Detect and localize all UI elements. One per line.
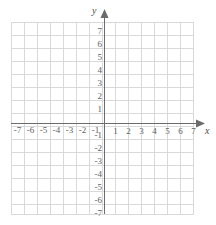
- x-tick-label-neg6: -6: [24, 126, 37, 135]
- x-tick-label-neg5: -5: [37, 126, 50, 135]
- y-tick-label-neg1: -1: [89, 131, 102, 140]
- axis-lines: [11, 9, 205, 214]
- grid-lines: [11, 22, 194, 215]
- y-tick-label-5: 5: [92, 53, 102, 62]
- y-tick-label-3: 3: [92, 79, 102, 88]
- grid-vertical-lines: [12, 22, 194, 215]
- x-tick-label-5: 5: [161, 127, 174, 136]
- x-tick-label-4: 4: [148, 127, 161, 136]
- x-tick-label-neg3: -3: [63, 126, 76, 135]
- y-tick-label-1: 1: [92, 105, 102, 114]
- coordinate-grid-figure: y x -7 -6 -5 -4 -3 -2 -1 1 2 3 4 5 6 7 7…: [0, 0, 216, 225]
- y-tick-label-neg7: -7: [89, 209, 102, 218]
- x-tick-label-neg2: -2: [76, 126, 89, 135]
- y-tick-label-neg4: -4: [89, 170, 102, 179]
- x-tick-label-neg4: -4: [50, 126, 63, 135]
- y-tick-label-neg3: -3: [89, 157, 102, 166]
- x-tick-label-7: 7: [187, 127, 200, 136]
- y-tick-label-neg5: -5: [89, 183, 102, 192]
- y-axis-arrowhead: [101, 9, 109, 18]
- x-tick-label-neg7: -7: [11, 126, 24, 135]
- y-axis-label: y: [92, 6, 96, 16]
- y-tick-label-neg6: -6: [89, 196, 102, 205]
- y-tick-label-7: 7: [92, 27, 102, 36]
- y-tick-label-2: 2: [92, 92, 102, 101]
- x-tick-label-6: 6: [174, 127, 187, 136]
- x-tick-label-2: 2: [122, 127, 135, 136]
- graph-canvas: [0, 0, 216, 225]
- x-tick-label-1: 1: [109, 127, 122, 136]
- y-tick-label-6: 6: [92, 40, 102, 49]
- y-tick-label-neg2: -2: [89, 144, 102, 153]
- y-tick-label-4: 4: [92, 66, 102, 75]
- x-tick-label-3: 3: [135, 127, 148, 136]
- x-axis-label: x: [205, 126, 209, 136]
